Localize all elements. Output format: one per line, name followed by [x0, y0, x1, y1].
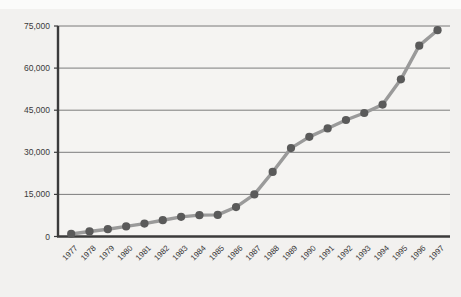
xtick-label: 1987 [244, 243, 263, 262]
xtick-label: 1982 [152, 243, 171, 262]
data-point-marker [378, 100, 386, 108]
data-line-group [71, 30, 437, 234]
data-point-marker [159, 216, 167, 224]
xtick-label: 1985 [207, 243, 226, 262]
data-point-marker [287, 144, 295, 152]
xtick-label: 1983 [171, 243, 190, 262]
ytick-label: 75,000 [24, 21, 50, 31]
ytick-label: 15,000 [24, 189, 50, 199]
ytick-label: 30,000 [24, 147, 50, 157]
data-point-marker [195, 211, 203, 219]
xtick-label: 1978 [79, 243, 98, 262]
data-point-marker [360, 109, 368, 117]
chart-figure: 015,00030,00045,00060,00075,000 19771978… [0, 0, 461, 297]
data-point-marker [140, 219, 148, 227]
data-point-marker [122, 222, 130, 230]
data-point-marker [250, 190, 258, 198]
xtick-label: 1992 [335, 243, 354, 262]
xtick-label: 1986 [226, 243, 245, 262]
xtick-label: 1993 [354, 243, 373, 262]
data-line [71, 30, 437, 234]
xtick-label: 1991 [317, 243, 336, 262]
data-point-marker [177, 213, 185, 221]
xtick-label: 1979 [97, 243, 116, 262]
data-point-marker [305, 133, 313, 141]
data-point-marker [397, 75, 405, 83]
xtick-label: 1980 [116, 243, 135, 262]
ytick-label: 0 [45, 232, 50, 242]
ytick-labels-group: 015,00030,00045,00060,00075,000 [24, 21, 50, 242]
xtick-labels-group: 1977197819791980198119821983198419851986… [61, 243, 447, 262]
xtick-label: 1988 [262, 243, 281, 262]
data-point-marker [85, 227, 93, 235]
xtick-label: 1984 [189, 243, 208, 262]
data-point-marker [214, 211, 222, 219]
gridlines-group [54, 26, 450, 237]
data-point-marker [232, 203, 240, 211]
xtick-label: 1996 [409, 243, 428, 262]
xtick-label: 1994 [372, 243, 391, 262]
xtick-label: 1989 [280, 243, 299, 262]
data-point-marker [269, 168, 277, 176]
axis-group [57, 26, 450, 237]
xtick-label: 1990 [299, 243, 318, 262]
line-chart-svg: 015,00030,00045,00060,00075,000 19771978… [0, 0, 461, 297]
xtick-label: 1977 [61, 243, 80, 262]
ytick-label: 45,000 [24, 105, 50, 115]
data-markers-group [67, 26, 442, 238]
xtick-label: 1981 [134, 243, 153, 262]
data-point-marker [433, 26, 441, 34]
xtick-label: 1997 [427, 243, 446, 262]
data-point-marker [415, 42, 423, 50]
xtick-label: 1995 [390, 243, 409, 262]
data-point-marker [342, 116, 350, 124]
data-point-marker [324, 124, 332, 132]
data-point-marker [67, 230, 75, 238]
data-point-marker [104, 225, 112, 233]
ytick-label: 60,000 [24, 63, 50, 73]
